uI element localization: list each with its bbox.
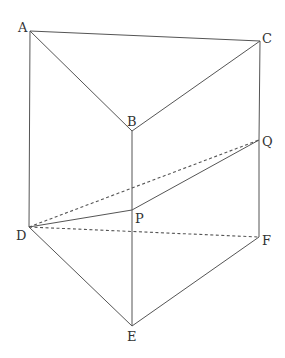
label-C: C bbox=[262, 31, 272, 46]
edge-CQ bbox=[259, 41, 260, 140]
edge-EF bbox=[132, 237, 259, 326]
edge-PQ bbox=[132, 140, 259, 210]
label-D: D bbox=[16, 228, 26, 243]
edge-AC bbox=[30, 31, 260, 41]
label-A: A bbox=[17, 20, 28, 35]
edge-BC bbox=[132, 41, 260, 131]
label-B: B bbox=[127, 114, 137, 129]
edge-DQ-dashed bbox=[29, 140, 259, 227]
edge-DE bbox=[29, 227, 132, 326]
edge-DF-dashed bbox=[29, 227, 259, 237]
label-Q: Q bbox=[262, 134, 273, 149]
label-P: P bbox=[135, 211, 144, 226]
prism-diagram: A B C Q D P E F bbox=[0, 0, 285, 358]
edge-AB bbox=[30, 31, 132, 131]
edge-DP bbox=[29, 210, 132, 227]
label-F: F bbox=[262, 233, 271, 248]
edge-AD bbox=[29, 31, 30, 227]
label-E: E bbox=[127, 329, 137, 344]
